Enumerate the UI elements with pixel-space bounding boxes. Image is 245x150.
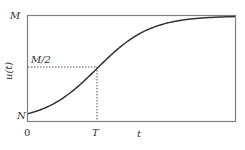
y-label-half-M: M/2 bbox=[30, 54, 51, 65]
logistic-chart: M M/2 N u(t) 0 T t bbox=[0, 0, 245, 150]
y-label-N: N bbox=[16, 110, 27, 121]
x-axis-title: t bbox=[137, 128, 142, 139]
plot-frame bbox=[28, 16, 236, 122]
y-axis-title: u(t) bbox=[3, 62, 14, 80]
y-label-M: M bbox=[9, 10, 21, 21]
x-label-T: T bbox=[92, 127, 100, 138]
logistic-curve bbox=[28, 17, 235, 114]
x-label-origin: 0 bbox=[24, 127, 30, 138]
